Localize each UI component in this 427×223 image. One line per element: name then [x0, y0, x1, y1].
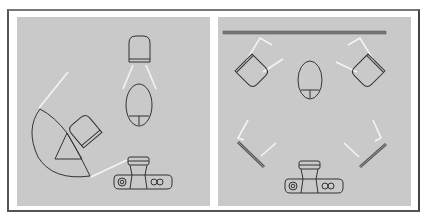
panel-background: [218, 17, 411, 206]
panel-background: [17, 17, 210, 206]
panel-right: [218, 17, 411, 206]
panel-left: [17, 17, 210, 206]
background-bar: [223, 31, 386, 34]
